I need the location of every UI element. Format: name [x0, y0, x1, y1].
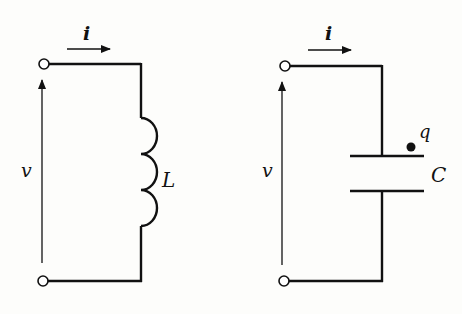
voltage-label: v	[21, 159, 32, 181]
terminal-bottom	[38, 276, 48, 286]
circuit-diagrams: i L v i	[0, 0, 462, 314]
charge-dot	[407, 143, 416, 152]
terminal-top	[39, 59, 49, 69]
voltage-label: v	[262, 159, 273, 181]
inductor-symbol	[141, 118, 157, 226]
terminal-bottom	[279, 276, 289, 286]
terminal-top	[280, 61, 290, 71]
inductor-label: L	[161, 168, 175, 192]
capacitor-label: C	[431, 163, 446, 187]
charge-label: q	[419, 121, 431, 142]
current-label: i	[83, 22, 90, 44]
current-label: i	[325, 22, 332, 44]
diagram-canvas: i L v i	[0, 0, 462, 314]
inductor-circuit: i L v	[21, 22, 175, 286]
capacitor-circuit: i q C v	[262, 22, 446, 286]
